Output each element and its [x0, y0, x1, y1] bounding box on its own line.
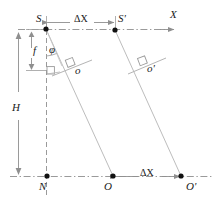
label-station-right: S': [118, 13, 126, 24]
ray-S-to-O: [46, 29, 113, 176]
label-image-point-left: o: [75, 65, 81, 76]
label-focal-length: f: [33, 45, 36, 56]
label-axis-x: X: [170, 9, 177, 20]
label-deltax-top: ΔX: [74, 14, 88, 24]
label-ground-left: O: [104, 181, 112, 192]
point-S: [43, 26, 48, 31]
point-O: [110, 173, 115, 178]
right-angle-mark-op: [137, 56, 147, 66]
ray-bundle: [46, 29, 181, 176]
label-height: H: [12, 102, 20, 113]
label-tilt-angle: φ: [49, 44, 55, 55]
point-Op: [178, 173, 183, 178]
right-angle-mark-focal: [47, 67, 60, 74]
label-deltax-bottom: ΔX: [140, 168, 154, 178]
point-Sp: [112, 27, 117, 32]
diagram-canvas: [0, 0, 221, 206]
label-image-point-right: o': [147, 63, 155, 74]
point-N: [44, 173, 49, 178]
ray-Sp-to-Op: [115, 30, 181, 176]
label-nadir: N: [39, 181, 46, 192]
geometry-diagram: S S' X ΔX ΔX f φ o o' H N O O': [0, 0, 221, 206]
label-station-left: S: [36, 13, 42, 24]
image-plane-left: [52, 57, 92, 76]
label-ground-right: O': [186, 181, 196, 192]
